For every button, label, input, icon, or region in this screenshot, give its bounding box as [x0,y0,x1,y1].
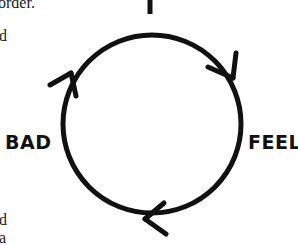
cycle-circle [63,35,241,213]
arrow-left-icon [50,73,76,96]
arrow-bottom-icon [145,203,166,234]
label-bad: BAD [5,131,51,153]
label-feel: FEEL [248,131,298,153]
cycle-diagram [0,0,298,245]
